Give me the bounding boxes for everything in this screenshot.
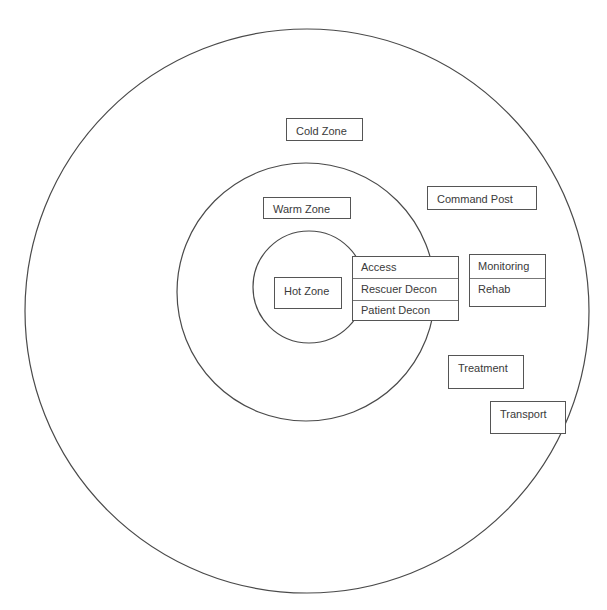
patient-decon-label: Patient Decon [361, 305, 430, 316]
cold-zone-ring [25, 29, 589, 593]
treatment-label: Treatment [458, 363, 508, 374]
monitoring-row: Monitoring [470, 255, 545, 278]
rescuer-decon-label: Rescuer Decon [361, 284, 437, 295]
monitoring-label: Monitoring [478, 261, 529, 272]
command-post-box: Command Post [427, 186, 537, 210]
rehab-row: Rehab [470, 278, 545, 306]
rescuer-decon-row: Rescuer Decon [353, 278, 458, 300]
cold-zone-label: Cold Zone [296, 126, 347, 137]
transport-label: Transport [500, 409, 547, 420]
monitoring-rehab-box: Monitoring Rehab [469, 254, 546, 307]
access-label: Access [361, 262, 396, 273]
rehab-label: Rehab [478, 284, 510, 295]
warm-zone-box: Warm Zone [263, 197, 351, 219]
hot-zone-label: Hot Zone [284, 286, 329, 297]
command-post-label: Command Post [437, 194, 513, 205]
transport-box: Transport [490, 401, 566, 434]
treatment-box: Treatment [448, 355, 524, 389]
hot-zone-box: Hot Zone [274, 277, 342, 309]
access-row: Access [353, 257, 458, 278]
warm-zone-label: Warm Zone [273, 204, 330, 215]
patient-decon-row: Patient Decon [353, 300, 458, 320]
decon-corridor-box: Access Rescuer Decon Patient Decon [352, 256, 459, 321]
cold-zone-box: Cold Zone [286, 118, 363, 141]
